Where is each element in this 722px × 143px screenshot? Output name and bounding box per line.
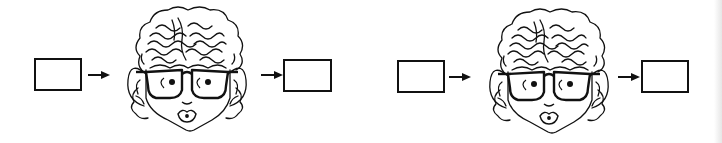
output-box-2 — [641, 60, 689, 93]
face-with-glasses-icon — [478, 8, 620, 136]
right-arrow-icon — [618, 72, 640, 82]
right-arrow-icon — [449, 72, 471, 82]
face-with-glasses-icon — [116, 6, 258, 134]
input-box-2 — [397, 60, 445, 93]
right-arrow-icon — [88, 70, 110, 80]
output-box-1 — [283, 59, 332, 92]
input-box-1 — [34, 58, 82, 91]
page-edge-shadow — [714, 0, 722, 143]
right-arrow-icon — [261, 70, 283, 80]
